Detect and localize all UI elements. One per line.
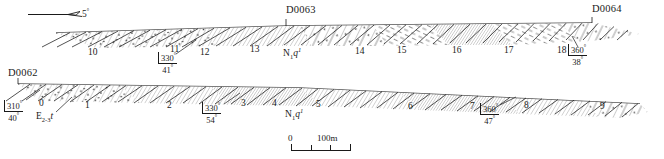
dip-measurement-310-40: 310° 40°: [4, 100, 23, 123]
bed-number-1: 1: [85, 101, 90, 111]
bed-number-6: 6: [408, 102, 413, 112]
bed-number-16: 16: [452, 46, 462, 56]
dip-measurement-330-41: 330° 41°: [158, 52, 177, 75]
bed-number-13: 13: [250, 45, 260, 55]
formation-label-e23t: E2-3t: [36, 112, 53, 123]
bed-number-8: 8: [524, 101, 529, 111]
dip-measurement-360-38: 360° 38°: [568, 44, 587, 67]
bed-number-5: 5: [316, 100, 321, 110]
bed-number-0: 0: [39, 99, 44, 109]
bed-number-17: 17: [504, 46, 514, 56]
bed-number-12: 12: [200, 48, 210, 58]
bed-number-3: 3: [241, 99, 246, 109]
geological-cross-section-figure: 5° D0063 D0064 D0062 10 11 12 13 14 15 1…: [0, 0, 664, 159]
formation-label-upper-n1q1: N1q1: [283, 47, 301, 61]
bed-number-18: 18: [557, 46, 567, 56]
formation-label-lower-n1q1: N1q1: [285, 108, 303, 122]
dip-measurement-330-54: 330° 54°: [202, 102, 221, 125]
bed-number-14: 14: [355, 47, 365, 57]
bed-number-4: 4: [272, 99, 277, 109]
station-label-d0062: D0062: [8, 68, 38, 79]
scale-bar-rule: [291, 144, 351, 151]
slope-angle-label: 5°: [82, 8, 89, 19]
bed-number-15: 15: [397, 46, 407, 56]
upper-section-body: [42, 23, 640, 48]
slope-arrow-icon: [28, 12, 82, 17]
station-label-d0063: D0063: [286, 5, 316, 16]
scale-bar: 0 100m: [291, 133, 351, 151]
bed-number-2: 2: [167, 101, 172, 111]
bed-number-7: 7: [470, 102, 475, 112]
bed-number-10: 10: [88, 48, 98, 58]
dip-measurement-360-47: 360° 47°: [480, 103, 499, 126]
bed-number-9: 9: [600, 102, 605, 112]
scale-start-label: 0: [288, 133, 293, 143]
station-label-d0064: D0064: [592, 4, 622, 15]
scale-end-label: 100m: [317, 133, 338, 143]
